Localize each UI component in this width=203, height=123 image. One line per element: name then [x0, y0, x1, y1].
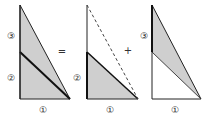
- equals-sign: =: [58, 46, 66, 57]
- label-side-2: ②: [73, 73, 81, 83]
- panel-lower-triangle: ② ①: [73, 5, 138, 115]
- label-base-1: ①: [171, 105, 179, 115]
- label-side-3: ③: [7, 31, 15, 41]
- panel-upper-sliver: ③ ①: [140, 5, 201, 115]
- plus-sign: +: [124, 45, 132, 56]
- label-side-3: ③: [140, 31, 148, 41]
- label-base-1: ①: [106, 105, 114, 115]
- label-base-1: ①: [39, 105, 47, 115]
- triangle-decomposition-diagram: ③ ② ① = ② ① + ③ ①: [0, 0, 203, 123]
- panel-whole-triangle: ③ ② ①: [7, 5, 70, 115]
- label-side-2: ②: [7, 73, 15, 83]
